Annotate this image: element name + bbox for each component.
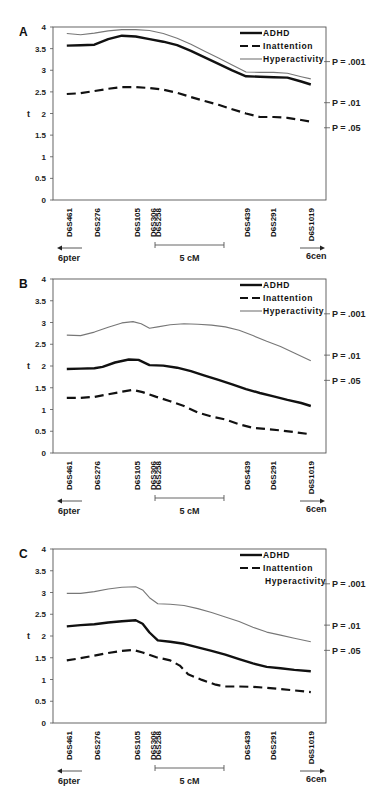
y-tick-label: 2 bbox=[42, 362, 47, 371]
y-tick-label: 1.5 bbox=[35, 654, 47, 663]
y-tick-label: 1 bbox=[42, 406, 47, 415]
marker-label: D6S258 bbox=[154, 730, 163, 759]
y-axis-label: t bbox=[27, 631, 30, 641]
y-tick-label: 0.5 bbox=[35, 174, 47, 183]
y-tick-label: 4 bbox=[42, 23, 47, 32]
scale-bar-label: 5 cM bbox=[179, 506, 199, 516]
y-tick-label: 3 bbox=[42, 319, 47, 328]
significance-label: P = .01 bbox=[332, 621, 361, 631]
y-axis-label: t bbox=[27, 361, 30, 371]
marker-label: D6S461 bbox=[65, 460, 74, 489]
y-tick-label: 1 bbox=[42, 676, 47, 685]
y-tick-label: 0 bbox=[42, 719, 47, 728]
panel-label: A bbox=[19, 25, 28, 39]
marker-label: D6S276 bbox=[93, 730, 102, 759]
y-tick-label: 2.5 bbox=[35, 340, 47, 349]
legend-label: Inattention bbox=[263, 293, 313, 303]
y-axis-label: t bbox=[27, 109, 30, 119]
y-tick-label: 3 bbox=[42, 589, 47, 598]
right-arrow-label: 6cen bbox=[306, 504, 327, 514]
panel-label: C bbox=[19, 547, 28, 561]
legend-label: Hyperactivity bbox=[263, 306, 324, 316]
significance-label: P = .001 bbox=[332, 309, 366, 319]
y-tick-label: 3.5 bbox=[35, 567, 47, 576]
y-tick-label: 0.5 bbox=[35, 427, 47, 436]
marker-label: D6S439 bbox=[243, 460, 252, 489]
marker-label: D6S258 bbox=[154, 460, 163, 489]
right-arrow-label: 6cen bbox=[306, 251, 327, 261]
significance-label: P = .01 bbox=[332, 351, 361, 361]
y-tick-label: 0 bbox=[42, 449, 47, 458]
y-tick-label: 4 bbox=[42, 545, 47, 554]
y-tick-label: 0.5 bbox=[35, 697, 47, 706]
marker-label: D6S105 bbox=[133, 207, 142, 236]
marker-label: D6S1019 bbox=[307, 460, 316, 494]
legend-label: ADHD bbox=[263, 280, 290, 290]
marker-label: D6S461 bbox=[65, 730, 74, 759]
marker-label: D6S1019 bbox=[307, 207, 316, 241]
marker-label: D6S105 bbox=[133, 460, 142, 489]
marker-label: D6S461 bbox=[65, 207, 74, 236]
marker-label: D6S439 bbox=[243, 207, 252, 236]
left-arrow-label: 6pter bbox=[58, 776, 81, 786]
scale-bar-label: 5 cM bbox=[179, 253, 199, 263]
y-tick-label: 1 bbox=[42, 153, 47, 162]
marker-label: D6S291 bbox=[269, 207, 278, 236]
marker-label: D6S291 bbox=[269, 730, 278, 759]
y-tick-label: 0 bbox=[42, 196, 47, 205]
significance-label: P = .001 bbox=[332, 579, 366, 589]
panel-label: B bbox=[19, 277, 28, 291]
legend-label: Hyperactivity bbox=[265, 576, 326, 586]
y-tick-label: 4 bbox=[42, 275, 47, 284]
significance-label: P = .05 bbox=[332, 123, 361, 133]
legend-label: Inattention bbox=[263, 41, 313, 51]
marker-label: D6S105 bbox=[133, 730, 142, 759]
y-tick-label: 1.5 bbox=[35, 384, 47, 393]
significance-label: P = .05 bbox=[332, 646, 361, 656]
legend-label: ADHD bbox=[263, 28, 290, 38]
legend-label: Inattention bbox=[263, 563, 313, 573]
left-arrow-label: 6pter bbox=[58, 253, 81, 263]
marker-label: D6S1019 bbox=[307, 730, 316, 764]
legend-label: Hyperactivity bbox=[263, 54, 324, 64]
marker-label: D6S276 bbox=[93, 207, 102, 236]
legend-label: ADHD bbox=[263, 550, 290, 560]
marker-label: D6S439 bbox=[243, 730, 252, 759]
y-tick-label: 3 bbox=[42, 66, 47, 75]
y-tick-label: 2 bbox=[42, 110, 47, 119]
y-tick-label: 3.5 bbox=[35, 45, 47, 54]
significance-label: P = .001 bbox=[332, 57, 366, 67]
background bbox=[0, 0, 382, 797]
y-tick-label: 1.5 bbox=[35, 131, 47, 140]
y-tick-label: 2.5 bbox=[35, 610, 47, 619]
marker-label: D6S276 bbox=[93, 460, 102, 489]
scale-bar-label: 5 cM bbox=[179, 776, 199, 786]
figure: A00.511.522.533.54tP = .001P = .01P = .0… bbox=[0, 0, 382, 797]
left-arrow-label: 6pter bbox=[58, 506, 81, 516]
y-tick-label: 2.5 bbox=[35, 88, 47, 97]
marker-label: D6S291 bbox=[269, 460, 278, 489]
marker-label: D6S258 bbox=[154, 207, 163, 236]
significance-label: P = .01 bbox=[332, 98, 361, 108]
y-tick-label: 3.5 bbox=[35, 297, 47, 306]
significance-label: P = .05 bbox=[332, 376, 361, 386]
y-tick-label: 2 bbox=[42, 632, 47, 641]
right-arrow-label: 6cen bbox=[306, 774, 327, 784]
